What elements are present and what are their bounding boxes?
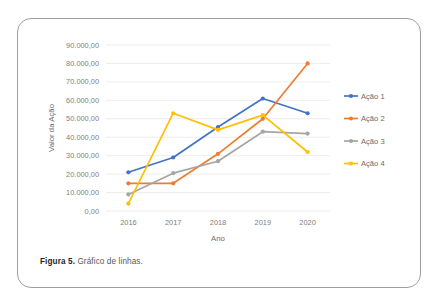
legend-item-2[interactable]: Ação 2 (344, 114, 385, 123)
figure-screenshot: 0,0010.000,0020.000,0030.000,0040.000,00… (0, 0, 439, 305)
data-point-marker (261, 113, 265, 117)
y-axis-tick-labels: 0,0010.000,0020.000,0030.000,0040.000,00… (66, 41, 99, 216)
data-point-marker (216, 152, 220, 156)
data-point-marker (126, 170, 130, 174)
data-point-marker (261, 96, 265, 100)
chart-canvas: 0,0010.000,0020.000,0030.000,0040.000,00… (18, 23, 422, 243)
caption-label: Figura 5. (40, 257, 75, 266)
series-2 (126, 61, 309, 185)
y-tick-label: 30.000,00 (66, 151, 99, 160)
y-tick-label: 90.000,00 (66, 41, 99, 50)
legend-marker (349, 161, 353, 165)
y-tick-label: 10.000,00 (66, 188, 99, 197)
y-tick-label: 20.000,00 (66, 170, 99, 179)
y-axis-title: Valor da Ação (47, 103, 56, 152)
data-point-marker (216, 128, 220, 132)
x-tick-label: 2016 (120, 218, 136, 227)
caption-text: Gráfico de linhas. (77, 257, 143, 266)
legend-item-4[interactable]: Ação 4 (344, 159, 385, 168)
legend-label: Ação 3 (361, 137, 385, 146)
legend-marker (349, 94, 353, 98)
data-point-marker (171, 155, 175, 159)
data-point-marker (171, 181, 175, 185)
legend-item-1[interactable]: Ação 1 (344, 92, 385, 101)
chart-legend: Ação 1Ação 2Ação 3Ação 4 (344, 92, 385, 169)
legend-label: Ação 1 (361, 92, 385, 101)
x-tick-label: 2019 (255, 218, 271, 227)
x-axis-tick-labels: 20162017201820192020 (120, 218, 316, 227)
series-line (128, 63, 307, 183)
data-point-marker (126, 202, 130, 206)
data-series-group (126, 61, 309, 205)
data-point-marker (126, 181, 130, 185)
figure-caption: Figura 5. Gráfico de linhas. (40, 257, 143, 266)
data-point-marker (126, 192, 130, 196)
data-point-marker (261, 130, 265, 134)
legend-item-3[interactable]: Ação 3 (344, 137, 385, 146)
x-tick-label: 2018 (210, 218, 226, 227)
data-point-marker (306, 131, 310, 135)
y-tick-label: 0,00 (85, 207, 99, 216)
data-point-marker (171, 111, 175, 115)
data-point-marker (216, 159, 220, 163)
legend-label: Ação 2 (361, 114, 385, 123)
legend-marker (349, 116, 353, 120)
legend-label: Ação 4 (361, 159, 385, 168)
figure-card: 0,0010.000,0020.000,0030.000,0040.000,00… (17, 18, 421, 288)
data-point-marker (171, 171, 175, 175)
line-chart: 0,0010.000,0020.000,0030.000,0040.000,00… (18, 23, 422, 243)
y-tick-label: 60.000,00 (66, 96, 99, 105)
data-point-marker (306, 61, 310, 65)
legend-marker (349, 139, 353, 143)
x-tick-label: 2020 (299, 218, 315, 227)
x-tick-label: 2017 (165, 218, 181, 227)
y-tick-label: 40.000,00 (66, 133, 99, 142)
y-tick-label: 50.000,00 (66, 114, 99, 123)
y-tick-label: 80.000,00 (66, 59, 99, 68)
x-axis-title: Ano (211, 234, 226, 243)
data-point-marker (306, 150, 310, 154)
y-tick-label: 70.000,00 (66, 77, 99, 86)
data-point-marker (306, 111, 310, 115)
